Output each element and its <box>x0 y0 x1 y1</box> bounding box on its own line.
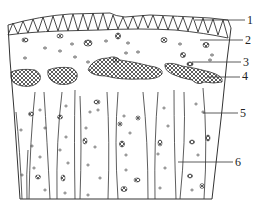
callout-label-1: 1 <box>247 14 253 26</box>
callout-label-3: 3 <box>243 56 249 68</box>
hatched-nodules-layer-4 <box>11 57 222 87</box>
columnar-cells-layer-6 <box>16 88 206 199</box>
callout-label-6: 6 <box>235 156 241 168</box>
callout-label-2: 2 <box>245 34 251 46</box>
callout-label-5: 5 <box>240 107 246 119</box>
callout-leader-lines <box>178 20 245 162</box>
callout-label-4: 4 <box>242 70 248 82</box>
layered-cross-section-diagram <box>0 0 255 208</box>
outer-boundary <box>8 25 231 199</box>
